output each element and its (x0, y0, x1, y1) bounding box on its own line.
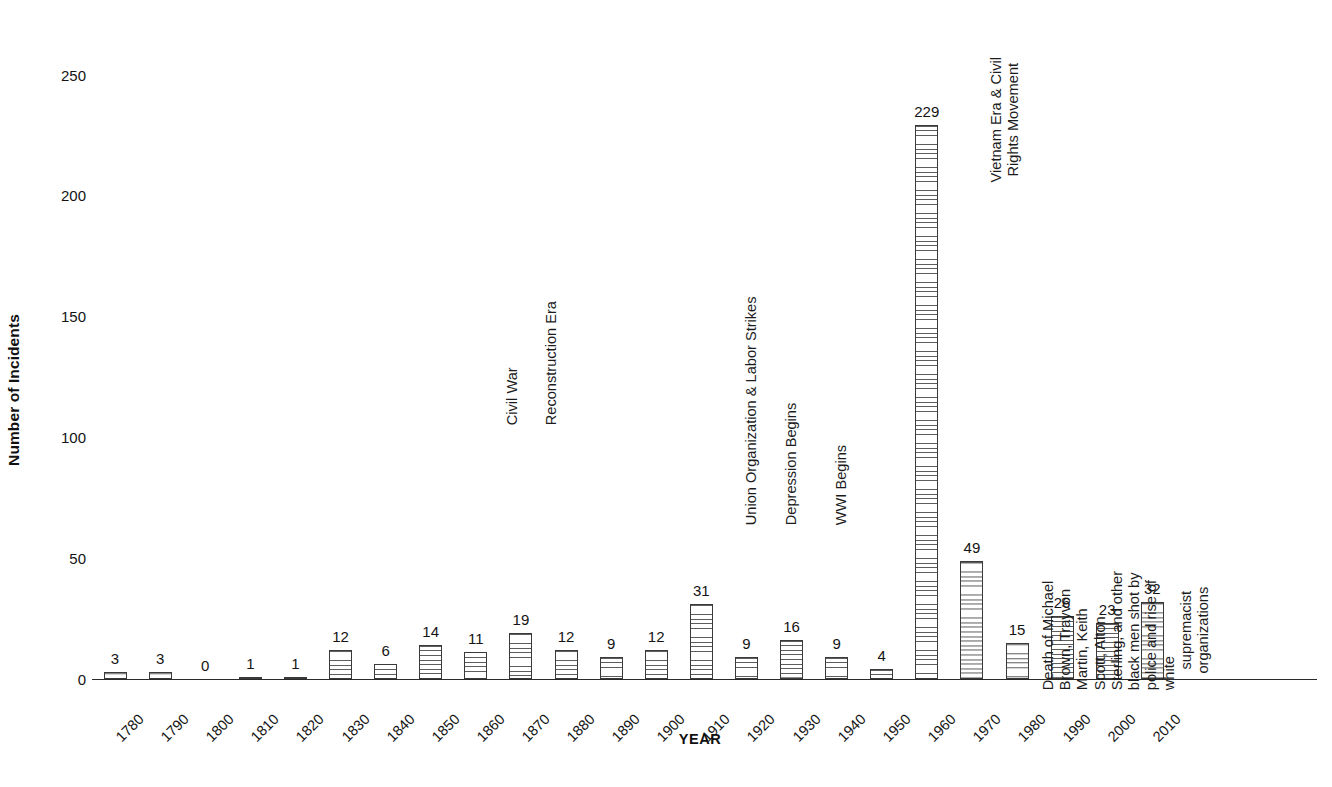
bar-value-label: 6 (381, 642, 389, 659)
x-axis-tick-label: 1990 (1083, 688, 1117, 722)
x-axis-tick-label: 1870 (541, 688, 575, 722)
annotation-police-shootings: Death of Michael Brown, Trayvon Martin, … (1040, 570, 1212, 690)
bar-value-label: 229 (914, 103, 939, 120)
annotation-reconstruction-era: Reconstruction Era (543, 301, 560, 425)
bar-value-label: 19 (513, 611, 530, 628)
bar[interactable] (374, 664, 397, 679)
bar[interactable] (735, 657, 758, 679)
annotation-line: Union Organization & Labor Strikes (743, 296, 760, 525)
x-axis-tick-label: 1920 (767, 688, 801, 722)
x-axis-tick-label: 2010 (1173, 688, 1207, 722)
x-axis-tick-label: 1780 (135, 688, 169, 722)
bar[interactable] (960, 561, 983, 679)
annotation-union-organization: Union Organization & Labor Strikes (743, 296, 760, 525)
bar-value-label: 12 (332, 628, 349, 645)
x-axis-tick-label: 1970 (992, 688, 1026, 722)
x-axis-tick-label: 1910 (722, 688, 756, 722)
bar[interactable] (464, 652, 487, 679)
bar-value-label: 1 (246, 655, 254, 672)
bar[interactable] (870, 669, 893, 679)
x-axis-tick-label: 1800 (226, 688, 260, 722)
annotation-line: WWI Begins (833, 445, 850, 525)
plot-area: 3178031790018001181011820121830618401418… (0, 0, 1332, 787)
x-axis-tick-label: 2000 (1128, 688, 1162, 722)
bar[interactable] (600, 657, 623, 679)
bar[interactable] (780, 640, 803, 679)
bar-value-label: 15 (1009, 621, 1026, 638)
annotation-depression-begins: Depression Begins (783, 403, 800, 526)
bar-value-label: 12 (558, 628, 575, 645)
x-axis-tick-label: 1850 (451, 688, 485, 722)
bar-value-label: 11 (468, 630, 484, 647)
bar-value-label: 9 (607, 635, 615, 652)
annotation-line: Reconstruction Era (543, 301, 560, 425)
bar-value-label: 31 (693, 582, 710, 599)
x-axis-tick-label: 1880 (586, 688, 620, 722)
x-axis-tick-label: 1950 (902, 688, 936, 722)
annotation-line: Rights Movement (1005, 57, 1022, 182)
x-axis-tick-label: 1900 (677, 688, 711, 722)
bar[interactable] (1006, 643, 1029, 679)
x-axis-tick-label: 1860 (496, 688, 530, 722)
annotation-line: Vietnam Era & Civil (988, 57, 1005, 182)
bar[interactable] (555, 650, 578, 679)
bar[interactable] (645, 650, 668, 679)
x-axis-tick-label: 1790 (181, 688, 215, 722)
x-axis-tick-label: 1930 (812, 688, 846, 722)
bar-value-label: 9 (742, 635, 750, 652)
bar[interactable] (284, 677, 307, 679)
bar-value-label: 9 (832, 635, 840, 652)
bar-value-label: 1 (291, 655, 299, 672)
x-axis-tick-label: 1830 (361, 688, 395, 722)
bar-value-label: 3 (111, 650, 119, 667)
x-axis-tick-label: 1840 (406, 688, 440, 722)
bar-value-label: 16 (783, 618, 800, 635)
x-axis-tick-label: 1820 (316, 688, 350, 722)
x-axis-tick-label: 1810 (271, 688, 305, 722)
x-axis-tick-label: 1940 (857, 688, 891, 722)
bar[interactable] (509, 633, 532, 679)
bar-value-label: 12 (648, 628, 665, 645)
bar[interactable] (239, 677, 262, 679)
annotation-line: Civil War (504, 367, 521, 425)
annotation-wwi-begins: WWI Begins (833, 445, 850, 525)
bar-value-label: 3 (156, 650, 164, 667)
annotation-vietnam-era: Vietnam Era & CivilRights Movement (988, 57, 1022, 182)
x-axis-tick-label: 1890 (632, 688, 666, 722)
bar[interactable] (104, 672, 127, 679)
bar-value-label: 14 (422, 623, 439, 640)
bar-value-label: 49 (964, 539, 981, 556)
annotation-line: supremacist organizations (1178, 570, 1212, 690)
x-axis-tick-label: 1960 (947, 688, 981, 722)
annotation-civil-war: Civil War (504, 367, 521, 425)
bar[interactable] (329, 650, 352, 679)
bar[interactable] (690, 604, 713, 679)
bar[interactable] (915, 125, 938, 679)
annotation-line: Sterling, and other black men shot by po… (1109, 570, 1178, 690)
x-axis-title: YEAR (679, 731, 722, 747)
annotation-line: Depression Begins (783, 403, 800, 526)
bar-chart: Number of Incidents 050100150200250 3178… (0, 0, 1332, 787)
bar-value-label: 4 (878, 647, 886, 664)
annotation-line: Death of Michael Brown, Trayvon Martin, … (1040, 570, 1109, 690)
bar[interactable] (149, 672, 172, 679)
x-axis-tick-label: 1980 (1037, 688, 1071, 722)
bar[interactable] (419, 645, 442, 679)
bar[interactable] (825, 657, 848, 679)
bar-value-label: 0 (201, 657, 209, 674)
